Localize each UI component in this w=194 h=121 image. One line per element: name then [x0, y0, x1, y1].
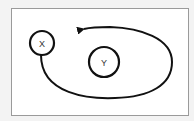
node-y-label: Y	[101, 58, 107, 68]
node-x: X	[30, 31, 54, 55]
node-x-label: X	[39, 39, 45, 49]
diagram-canvas: X Y	[0, 0, 194, 121]
node-y: Y	[89, 47, 119, 77]
